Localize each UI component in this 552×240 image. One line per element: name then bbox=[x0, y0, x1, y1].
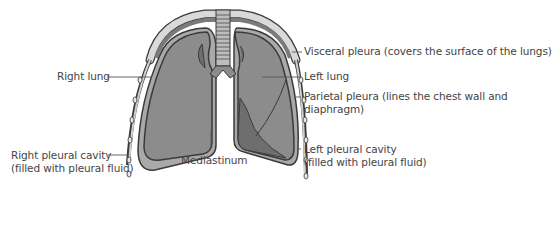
label-left-lung: Left lung bbox=[304, 70, 349, 83]
label-left-pleural-cavity-note: (filled with pleural fluid) bbox=[304, 156, 427, 169]
label-visceral-pleura: Visceral pleura (covers the surface of t… bbox=[304, 45, 552, 58]
label-left-pleural-cavity: Left pleural cavity bbox=[304, 143, 397, 156]
label-parietal-pleura: Parietal pleura (lines the chest wall an… bbox=[304, 90, 508, 103]
label-right-pleural-cavity-note: (filled with pleural fluid) bbox=[11, 162, 134, 175]
label-right-lung: Right lung bbox=[57, 70, 110, 83]
label-parietal-pleura-note: diaphragm) bbox=[304, 103, 364, 116]
label-mediastinum: Mediastinum bbox=[181, 154, 247, 167]
label-right-pleural-cavity: Right pleural cavity bbox=[11, 149, 111, 162]
